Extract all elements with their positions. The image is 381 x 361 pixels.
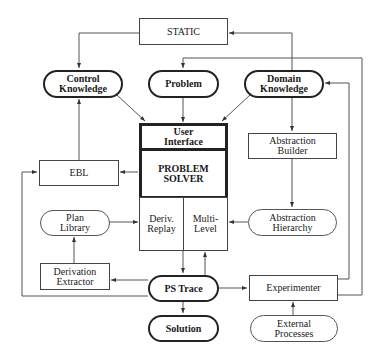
plan-library-label: Plan Library xyxy=(60,213,90,233)
external-processes-node: External Processes xyxy=(250,315,338,342)
abstraction-builder-label: Abstraction Builder xyxy=(269,136,316,156)
problem-solver-box: PROBLEM SOLVER xyxy=(139,148,228,199)
user-interface-box: User Interface xyxy=(139,123,228,151)
derivation-extractor-label: Derivation Extractor xyxy=(54,267,97,287)
abstraction-builder-box: Abstraction Builder xyxy=(248,133,337,159)
external-processes-label: External Processes xyxy=(275,319,314,339)
plan-library-node: Plan Library xyxy=(40,210,110,236)
experimenter-box: Experimenter xyxy=(249,275,338,301)
problem-node: Problem xyxy=(148,70,219,98)
static-label: STATIC xyxy=(167,27,200,37)
solution-node: Solution xyxy=(148,315,219,342)
solution-label: Solution xyxy=(166,324,202,334)
multi-level-label: Multi- Level xyxy=(193,214,219,234)
control-knowledge-label: Control Knowledge xyxy=(59,74,107,94)
ps-trace-node: PS Trace xyxy=(148,275,219,302)
ebl-box: EBL xyxy=(39,160,119,186)
derivation-extractor-box: Derivation Extractor xyxy=(40,263,110,290)
ps-trace-label: PS Trace xyxy=(164,284,202,294)
static-box: STATIC xyxy=(139,18,228,45)
problem-label: Problem xyxy=(165,79,201,89)
experimenter-label: Experimenter xyxy=(266,283,320,293)
ebl-label: EBL xyxy=(70,168,89,178)
domain-knowledge-node: Domain Knowledge xyxy=(244,70,324,98)
deriv-replay-box: Deriv. Replay xyxy=(139,197,184,251)
problem-solver-label: PROBLEM SOLVER xyxy=(158,164,209,184)
user-interface-label: User Interface xyxy=(164,127,203,147)
abstraction-hierarchy-label: Abstraction Hierarchy xyxy=(269,213,316,233)
deriv-replay-label: Deriv. Replay xyxy=(147,214,175,234)
multi-level-box: Multi- Level xyxy=(183,197,228,251)
control-knowledge-node: Control Knowledge xyxy=(43,70,123,98)
domain-knowledge-label: Domain Knowledge xyxy=(260,74,308,94)
abstraction-hierarchy-node: Abstraction Hierarchy xyxy=(248,209,337,236)
